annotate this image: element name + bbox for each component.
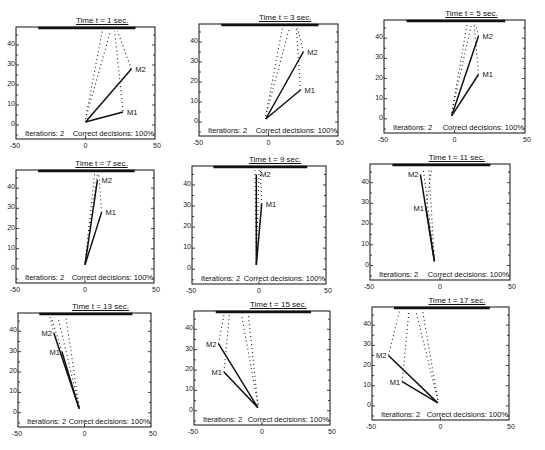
dotted-trajectory [423, 311, 438, 400]
y-tick-label: 40 [7, 40, 15, 47]
y-tick-label: 20 [190, 77, 198, 84]
axes-frame [199, 24, 338, 136]
y-tick-label: 30 [7, 60, 15, 67]
axes-frame [16, 27, 155, 139]
dotted-trajectory [218, 315, 223, 344]
x-tick-label: -50 [10, 142, 20, 149]
y-tick-label: 10 [375, 94, 383, 101]
dotted-trajectory [452, 24, 468, 113]
series-label-m1: M1 [106, 208, 116, 217]
dotted-trajectory [388, 311, 399, 355]
series-line-m1 [266, 90, 301, 119]
correct-decisions-label: Correct decisions: 100% [427, 410, 508, 419]
iterations-label: Iterations: 2 [203, 415, 242, 424]
x-tick-label: 50 [328, 428, 336, 435]
x-tick-label: -50 [188, 428, 198, 435]
dotted-trajectory [298, 28, 304, 52]
plot-area: M1M2 [18, 313, 151, 427]
y-tick-label: 40 [185, 324, 193, 331]
x-tick-label: 50 [508, 283, 516, 290]
x-tick-label: 0 [83, 286, 87, 293]
y-tick-label: 40 [375, 33, 383, 40]
x-tick-label: 0 [83, 430, 87, 437]
dotted-trajectory [58, 317, 79, 407]
plot-area: M1M2 [16, 170, 154, 283]
y-tick-label: 30 [363, 340, 371, 347]
x-tick-label: -50 [10, 286, 20, 293]
dotted-trajectory [248, 315, 258, 405]
y-tick-label: 20 [183, 222, 191, 229]
y-tick-label: 40 [7, 183, 15, 190]
series-label-m1: M1 [211, 368, 221, 377]
x-tick-label: -50 [366, 423, 376, 430]
x-tick-label: 50 [324, 287, 332, 294]
correct-decisions-label: Correct decisions: 100% [428, 270, 509, 279]
series-label-m2: M2 [41, 329, 51, 338]
y-tick-label: 0 [187, 264, 191, 271]
y-tick-label: 0 [379, 114, 383, 121]
dotted-trajectory [51, 317, 62, 352]
series-label-m1: M1 [414, 204, 424, 213]
chart-panel: M1M2Time t = 13 sec.Iterations: 2Correct… [18, 313, 151, 427]
y-tick-label: 30 [7, 203, 15, 210]
y-tick-label: 40 [183, 180, 191, 187]
y-tick-label: 30 [190, 57, 198, 64]
y-tick-label: 10 [183, 243, 191, 250]
series-label-m2: M2 [206, 340, 216, 349]
axes-frame [372, 307, 509, 420]
y-tick-label: 20 [363, 361, 371, 368]
correct-decisions-label: Correct decisions: 100% [73, 129, 154, 138]
x-tick-label: 50 [153, 142, 161, 149]
dotted-trajectory [117, 31, 131, 69]
y-tick-label: 20 [185, 365, 193, 372]
plot-area: M1M2 [192, 166, 326, 284]
panel-title: Time t = 7 sec. [75, 159, 127, 168]
y-tick-label: 40 [361, 178, 369, 185]
y-tick-label: 10 [7, 244, 15, 251]
plot-area: M1M2 [384, 20, 525, 133]
axes-frame [370, 164, 510, 280]
y-tick-label: 30 [361, 198, 369, 205]
series-label-m2: M2 [376, 351, 386, 360]
chart-panel: M1M2Time t = 3 sec.Iterations: 2Correct … [199, 24, 338, 136]
y-tick-label: 10 [7, 100, 15, 107]
series-label-m2: M2 [135, 65, 145, 74]
y-tick-label: 10 [185, 385, 193, 392]
x-tick-label: 0 [453, 136, 457, 143]
series-label-m1: M1 [266, 200, 276, 209]
plot-area: M1M2 [16, 27, 155, 139]
panel-title: Time t = 1 sec. [76, 16, 128, 25]
series-line-m1 [452, 74, 479, 115]
x-tick-label: -50 [12, 430, 22, 437]
series-label-m1: M1 [482, 70, 492, 79]
y-tick-label: 40 [9, 326, 17, 333]
y-tick-label: 30 [375, 53, 383, 60]
panel-title: Time t = 9 sec. [249, 155, 301, 164]
panel-title: Time t = 5 sec. [445, 9, 497, 18]
y-tick-label: 20 [375, 74, 383, 81]
x-tick-label: 50 [523, 136, 531, 143]
y-tick-label: 0 [13, 408, 17, 415]
x-tick-label: 0 [84, 142, 88, 149]
series-label-m1: M1 [390, 378, 400, 387]
chart-panel: M1M2Time t = 17 sec.Iterations: 2Correct… [372, 307, 509, 420]
iterations-label: Iterations: 2 [25, 129, 64, 138]
axes-frame [192, 166, 326, 284]
y-tick-label: 30 [185, 345, 193, 352]
series-label-m2: M2 [482, 32, 492, 41]
x-tick-label: 0 [257, 287, 261, 294]
series-line-m1 [224, 372, 258, 408]
y-tick-label: 0 [11, 120, 15, 127]
iterations-label: Iterations: 2 [27, 417, 66, 426]
y-tick-label: 40 [363, 320, 371, 327]
iterations-label: Iterations: 2 [208, 126, 247, 135]
chart-panel: M1M2Time t = 1 sec.Iterations: 2Correct … [16, 27, 155, 139]
panel-title: Time t = 3 sec. [259, 13, 311, 22]
iterations-label: Iterations: 2 [25, 273, 64, 282]
plot-area: M1M2 [199, 24, 338, 136]
x-tick-label: 0 [267, 139, 271, 146]
y-tick-label: 0 [367, 401, 371, 408]
x-tick-label: 50 [152, 286, 160, 293]
axes-frame [16, 170, 154, 283]
series-label-m2: M2 [408, 170, 418, 179]
